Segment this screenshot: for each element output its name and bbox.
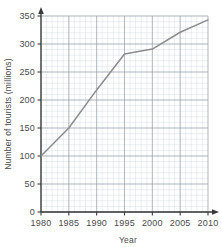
x-tick-label: 1980 bbox=[31, 218, 52, 228]
y-tick-label: 150 bbox=[19, 123, 35, 133]
y-tick-label: 250 bbox=[19, 67, 35, 77]
y-tick-label: 100 bbox=[19, 151, 35, 161]
x-tick-label: 1985 bbox=[58, 218, 79, 228]
x-axis-tick-labels: 1980198519901995200020052010 bbox=[31, 218, 219, 228]
x-tick-label: 2005 bbox=[170, 218, 191, 228]
x-tick-label: 2010 bbox=[198, 218, 219, 228]
y-tick-label: 350 bbox=[19, 11, 35, 21]
x-tick-label: 1995 bbox=[114, 218, 135, 228]
chart-container: 350300250200150100500 198019851990199520… bbox=[0, 0, 222, 247]
y-tick-label: 0 bbox=[30, 207, 35, 217]
y-tick-label: 200 bbox=[19, 95, 35, 105]
y-tick-label: 50 bbox=[25, 179, 35, 189]
x-tick-label: 2000 bbox=[142, 218, 163, 228]
x-tick-label: 1990 bbox=[86, 218, 107, 228]
y-axis-title: Number of tourists (millions) bbox=[3, 58, 13, 170]
y-tick-label: 300 bbox=[19, 39, 35, 49]
tourists-line-chart: 350300250200150100500 198019851990199520… bbox=[0, 0, 222, 247]
x-axis-title: Year bbox=[119, 235, 137, 245]
